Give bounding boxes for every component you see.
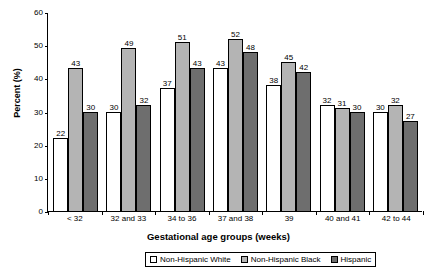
plot-area: 0102030405060 22433030493237514343524838… — [47, 13, 422, 212]
bar: 51 — [175, 42, 190, 211]
legend-swatch-icon — [331, 256, 338, 263]
y-axis-title: Percent (%) — [12, 43, 22, 143]
x-axis-tick-labels: < 3232 and 3334 to 3637 and 383940 and 4… — [48, 214, 423, 224]
bar-value-label: 48 — [246, 43, 255, 52]
bar-group: 384542 — [262, 13, 315, 211]
bar: 52 — [228, 39, 243, 211]
y-tick-mark — [45, 46, 48, 47]
bar-value-label: 52 — [231, 30, 240, 39]
bar-value-label: 38 — [269, 76, 278, 85]
bar: 43 — [68, 68, 83, 211]
legend-label: Non-Hispanic White — [160, 255, 231, 264]
bar-value-label: 31 — [338, 99, 347, 108]
bar: 37 — [160, 88, 175, 211]
bar-group: 304932 — [102, 13, 155, 211]
bar-group: 303227 — [369, 13, 422, 211]
bar: 43 — [190, 68, 205, 211]
legend-swatch-icon — [241, 256, 248, 263]
x-tick-label: 39 — [262, 214, 316, 224]
legend-item: Non-Hispanic Black — [241, 255, 321, 264]
legend-item: Non-Hispanic White — [150, 255, 231, 264]
bar: 30 — [83, 112, 98, 212]
bar: 31 — [335, 108, 350, 211]
bar: 32 — [388, 105, 403, 211]
bar: 30 — [350, 112, 365, 212]
bar: 42 — [296, 72, 311, 211]
y-tick-label: 50 — [21, 42, 43, 50]
legend-swatch-icon — [150, 256, 157, 263]
y-tick-mark — [45, 13, 48, 14]
bar-value-label: 32 — [391, 96, 400, 105]
y-tick-mark — [45, 113, 48, 114]
bar-value-label: 30 — [376, 103, 385, 112]
bar: 30 — [106, 112, 121, 212]
y-tick-mark — [45, 146, 48, 147]
bar-value-label: 30 — [86, 103, 95, 112]
y-tick-mark — [45, 79, 48, 80]
bar-value-label: 43 — [216, 59, 225, 68]
bar-group: 435248 — [209, 13, 262, 211]
y-tick-label: 20 — [21, 142, 43, 150]
x-tick-label: 34 to 36 — [155, 214, 209, 224]
bar-value-label: 32 — [139, 96, 148, 105]
chart-legend: Non-Hispanic WhiteNon-Hispanic BlackHisp… — [145, 252, 376, 267]
bar-value-label: 27 — [406, 112, 415, 121]
y-tick-mark — [45, 179, 48, 180]
y-tick-label: 0 — [21, 208, 43, 216]
bar: 49 — [121, 48, 136, 211]
x-tick-mark — [423, 211, 424, 215]
x-tick-label: 42 to 44 — [369, 214, 423, 224]
bar-value-label: 42 — [299, 63, 308, 72]
x-tick-label: 37 and 38 — [209, 214, 263, 224]
y-tick-label: 60 — [21, 9, 43, 17]
bar-value-label: 32 — [323, 96, 332, 105]
bar: 32 — [320, 105, 335, 211]
bar-value-label: 49 — [124, 39, 133, 48]
x-tick-label: 32 and 33 — [102, 214, 156, 224]
bar-group: 224330 — [49, 13, 102, 211]
bar-value-label: 30 — [109, 103, 118, 112]
legend-label: Non-Hispanic Black — [251, 255, 321, 264]
bar: 45 — [281, 62, 296, 211]
bar-chart: Percent (%) 0102030405060 22433030493237… — [0, 0, 437, 278]
y-tick-label: 10 — [21, 175, 43, 183]
bar-group: 375143 — [156, 13, 209, 211]
bar-value-label: 37 — [163, 79, 172, 88]
bar-value-label: 45 — [284, 53, 293, 62]
y-tick-label: 40 — [21, 75, 43, 83]
legend-label: Hispanic — [341, 255, 372, 264]
bar-value-label: 43 — [193, 59, 202, 68]
y-tick-label: 30 — [21, 109, 43, 117]
x-axis-title: Gestational age groups (weeks) — [0, 231, 437, 242]
bar: 43 — [213, 68, 228, 211]
bar-value-label: 30 — [353, 103, 362, 112]
bar: 22 — [53, 138, 68, 211]
bar: 48 — [243, 52, 258, 211]
x-tick-label: < 32 — [48, 214, 102, 224]
bar-value-label: 43 — [71, 59, 80, 68]
bar: 27 — [403, 121, 418, 211]
bar-value-label: 22 — [56, 129, 65, 138]
bar-value-label: 51 — [178, 33, 187, 42]
bar: 30 — [373, 112, 388, 212]
legend-item: Hispanic — [331, 255, 372, 264]
bar-group: 323130 — [315, 13, 368, 211]
bar: 32 — [136, 105, 151, 211]
x-tick-label: 40 and 41 — [316, 214, 370, 224]
bar-groups: 2243303049323751434352483845423231303032… — [49, 13, 422, 211]
bar: 38 — [266, 85, 281, 211]
